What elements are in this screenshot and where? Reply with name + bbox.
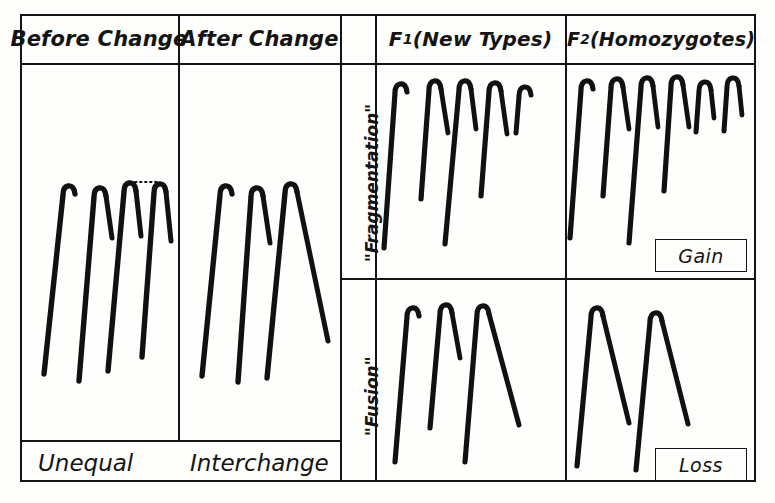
header-f1-subscript: 1: [403, 31, 413, 47]
header-before-change-label: Before Change: [10, 27, 187, 51]
column-rule-before-after: [178, 14, 180, 440]
row-rule-fragmentation-fusion: [340, 278, 756, 280]
header-f2-homozygotes: F2 (Homozygotes): [567, 16, 755, 62]
header-before-change: Before Change: [20, 16, 178, 62]
tag-gain: Gain: [655, 239, 747, 272]
header-f2-rest: (Homozygotes): [590, 28, 755, 50]
header-after-change-label: After Change: [180, 27, 339, 51]
figure-root: Before Change After Change F1 (New Types…: [0, 0, 775, 503]
tag-loss: Loss: [655, 448, 747, 481]
tag-loss-label: Loss: [679, 454, 723, 476]
row-label-fusion-text: "Fusion": [362, 356, 382, 436]
caption-interchange-text: Interchange: [190, 450, 329, 476]
row-label-fusion: "Fusion": [362, 356, 382, 436]
header-f1-base: F: [389, 27, 403, 51]
header-after-change: After Change: [180, 16, 339, 62]
caption-separator-rule: [20, 440, 340, 442]
header-f2-base: F: [567, 28, 580, 50]
diagram-outer-frame: [20, 14, 756, 482]
header-f1-new-types: F1 (New Types): [377, 16, 564, 62]
header-f2-subscript: 2: [580, 31, 590, 47]
row-label-fragmentation-text: "Fragmentation": [362, 104, 382, 262]
tag-gain-label: Gain: [678, 245, 724, 267]
column-rule-after-f1: [340, 14, 342, 482]
header-separator-rule: [20, 63, 756, 65]
column-rule-f1-f2: [565, 14, 567, 482]
row-label-fragmentation: "Fragmentation": [362, 104, 382, 262]
header-f1-rest: (New Types): [413, 27, 552, 51]
caption-unequal-text: Unequal: [38, 450, 133, 476]
caption-unequal: Unequal: [38, 444, 188, 482]
caption-interchange: Interchange: [190, 444, 380, 482]
